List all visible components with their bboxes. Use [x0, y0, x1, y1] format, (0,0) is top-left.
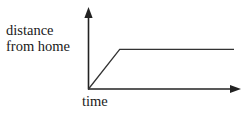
graph-figure: b. distance from home time [0, 0, 250, 113]
plot-area [0, 0, 250, 113]
data-curve [89, 49, 235, 89]
y-axis-arrowhead-icon [84, 7, 92, 18]
x-axis-arrowhead-icon [230, 85, 241, 93]
x-axis-label: time [82, 94, 108, 109]
